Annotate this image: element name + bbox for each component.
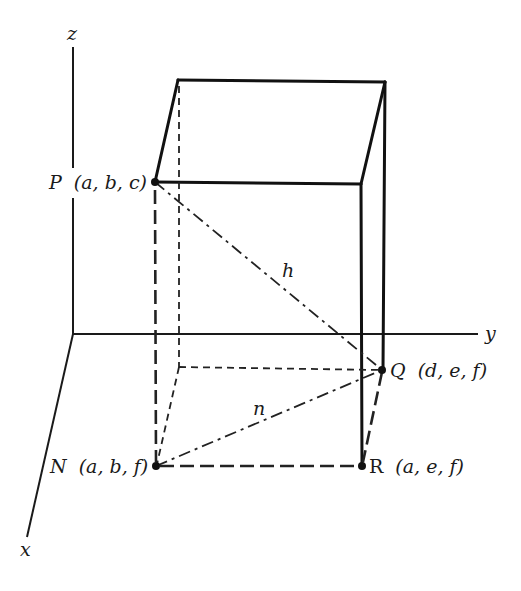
label-N-name: N <box>49 455 68 477</box>
label-R: R (a, e, f) <box>369 455 464 477</box>
bottom-left-edge-dashed <box>157 367 179 464</box>
label-Q-name: Q <box>390 359 406 381</box>
label-P: P (a, b, c) <box>48 171 147 193</box>
x-axis <box>27 334 73 537</box>
x-axis-label: x <box>20 538 31 560</box>
top-left-edge <box>155 80 178 182</box>
label-N-coords: (a, b, f) <box>79 455 149 477</box>
point-Q <box>378 366 386 374</box>
top-right-edge <box>361 82 385 184</box>
label-N: N (a, b, f) <box>49 455 148 477</box>
diagonal-n-NQ <box>156 370 382 466</box>
bottom-back-edge-dashed <box>179 367 380 370</box>
axes: z y x <box>20 22 496 560</box>
top-front-edge <box>155 182 361 184</box>
label-R-name: R <box>369 455 384 477</box>
bottom-right-edge-QR <box>363 372 382 462</box>
point-labels: P (a, b, c) Q (d, e, f) N (a, b, f) R (a… <box>48 171 487 477</box>
box-dashed-edges <box>155 86 382 466</box>
point-N <box>152 462 160 470</box>
top-back-edge <box>178 80 385 82</box>
label-P-coords: (a, b, c) <box>74 171 147 193</box>
label-Q: Q (d, e, f) <box>390 359 487 381</box>
points <box>151 178 386 470</box>
h-label: h <box>282 259 294 281</box>
n-label: n <box>253 397 265 419</box>
box-solid-edges <box>155 80 385 466</box>
3d-box-distance-diagram: z y x h n P (a, <box>0 0 521 591</box>
point-P <box>151 178 159 186</box>
label-P-name: P <box>48 171 63 193</box>
y-axis-label: y <box>484 322 496 344</box>
label-R-coords: (a, e, f) <box>395 455 464 477</box>
front-left-vertical-dashed <box>155 190 156 462</box>
diagonal-h-PQ <box>155 182 382 370</box>
z-axis-label: z <box>66 22 78 44</box>
front-right-vertical <box>361 184 362 466</box>
diagonals: h n <box>155 182 382 466</box>
point-R <box>358 462 366 470</box>
back-right-vertical <box>383 82 385 370</box>
label-Q-coords: (d, e, f) <box>418 359 487 381</box>
